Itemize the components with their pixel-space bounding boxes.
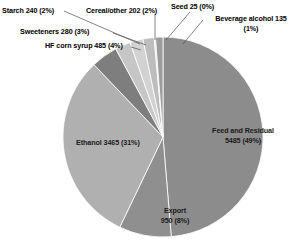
leader-line-seed <box>166 12 190 40</box>
leader-line-beverage <box>183 20 203 44</box>
slice-label-export: Export 950 (8%) <box>144 206 206 225</box>
slice-label-beverage-line2: (1%) <box>244 24 259 33</box>
slice-label-feed-line2: 5485 (49%) <box>225 136 261 145</box>
slice-label-export-line1: Export <box>164 206 186 215</box>
slice-label-hf-corn-syrup: HF corn syrup 485 (4%) <box>45 41 123 51</box>
slice-label-beverage-alcohol: Beverage alcohol 135 (1%) <box>205 14 297 33</box>
slice-label-beverage-line1: Beverage alcohol 135 <box>215 14 287 23</box>
slice-label-export-line2: 950 (8%) <box>161 216 189 225</box>
slice-label-seed: Seed 25 (0%) <box>171 2 214 12</box>
slice-label-sweeteners: Sweeteners 280 (3%) <box>20 27 89 37</box>
slice-label-starch: Starch 240 (2%) <box>2 6 54 16</box>
slice-label-feed-and-residual: Feed and Residual 5485 (49%) <box>205 126 281 145</box>
pie-chart-figure: Starch 240 (2%) Cereal/other 202 (2%) Se… <box>0 0 300 247</box>
slice-label-ethanol: Ethanol 3465 (31%) <box>76 138 160 148</box>
slice-label-cereal: Cereal/other 202 (2%) <box>86 6 157 16</box>
slice-label-feed-line1: Feed and Residual <box>212 126 274 135</box>
